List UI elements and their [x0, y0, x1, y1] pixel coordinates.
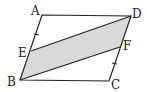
label-f: F	[123, 39, 131, 53]
label-d: D	[132, 7, 142, 21]
label-e: E	[18, 46, 27, 60]
label-b: B	[7, 75, 16, 89]
parallelogram-figure: A D E F B C	[0, 0, 147, 92]
shaded-region-edfb	[20, 16, 131, 80]
label-a: A	[30, 4, 40, 18]
tick-mark-fc	[112, 63, 117, 64]
label-c: C	[111, 78, 120, 92]
